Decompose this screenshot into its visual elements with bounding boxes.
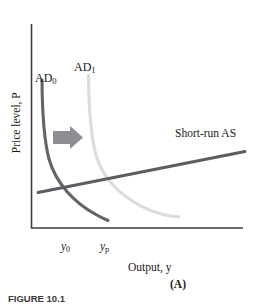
ad0-label-main: AD: [35, 71, 52, 85]
y-axis-label: Price level, P: [11, 75, 23, 171]
short-run-as-label-text: Short-run AS: [175, 127, 236, 139]
panel-label: (A): [170, 279, 186, 291]
x-tick-label-yp: yp: [100, 241, 109, 253]
right-arrow-icon: [53, 126, 83, 149]
ad0-label-sub: 0: [52, 76, 56, 86]
short-run-as-label: Short-run AS: [175, 128, 236, 140]
figure-caption-text: FIGURE 10.1: [8, 293, 65, 304]
short-run-as-line: [38, 152, 245, 193]
chart-canvas: [0, 0, 270, 304]
x-tick-y0-sub: 0: [66, 245, 70, 254]
figure-panel-a: Price level, P Output, y (A) AD0 AD1 Sho…: [0, 0, 270, 304]
x-tick-label-y0: y0: [61, 241, 70, 253]
ad0-curve-label: AD0: [35, 72, 57, 84]
ad1-curve: [89, 75, 180, 217]
panel-label-text: (A): [170, 278, 186, 290]
figure-caption: FIGURE 10.1: [8, 294, 65, 304]
ad1-curve-label: AD1: [74, 61, 96, 73]
ad1-label-sub: 1: [91, 65, 95, 75]
ad1-label-main: AD: [74, 60, 91, 74]
y-axis-label-text: Price level, P: [10, 92, 22, 153]
x-axis-label: Output, y: [128, 262, 171, 274]
x-tick-yp-sub: p: [105, 245, 109, 254]
x-axis-label-text: Output, y: [128, 261, 171, 273]
ad0-curve: [42, 80, 108, 221]
